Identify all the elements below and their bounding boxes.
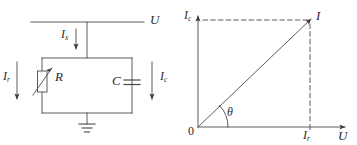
phasor-origin-label: 0 — [188, 125, 194, 137]
capacitor-branch-current-label: Ic — [160, 70, 167, 84]
figure-canvas — [0, 0, 357, 145]
phasor-x-tick-subscript: r — [307, 134, 310, 143]
phasor-x-tick-label: Ir — [303, 129, 310, 143]
resistor-branch-current-label: Ir — [3, 70, 10, 84]
phasor-y-axis-subscript: c — [188, 14, 191, 23]
total-current-subscript: x — [65, 33, 68, 42]
resistor-label: R — [55, 70, 63, 83]
phasor-angle-label: θ — [227, 106, 233, 118]
phasor-y-axis-label: Ic — [184, 9, 191, 23]
figure-root: U Ix R C Ir Ic Ic I Ir U 0 θ — [0, 0, 357, 145]
phasor-x-axis-label: U — [338, 129, 347, 142]
phasor-resultant-label: I — [316, 9, 320, 22]
resultant-current-vector — [198, 19, 311, 127]
circuit-diagram — [17, 22, 152, 132]
capacitor-label: C — [112, 74, 121, 87]
capacitor-branch-current-subscript: c — [164, 75, 167, 84]
phasor-diagram — [198, 16, 345, 130]
supply-voltage-label: U — [150, 13, 159, 26]
resistor-branch-current-subscript: r — [7, 75, 10, 84]
total-current-label: Ix — [61, 28, 68, 42]
